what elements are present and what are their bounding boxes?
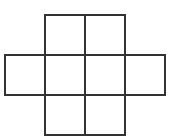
grid-cell-r1-c3 (124, 54, 166, 96)
grid-cell-r1-c2 (84, 54, 126, 96)
grid-cell-r0-c2 (84, 14, 126, 56)
grid-cell-r2-c1 (44, 94, 86, 136)
square-grid-net-figure (0, 0, 173, 140)
grid-cell-r0-c1 (44, 14, 86, 56)
grid-cell-r1-c0 (4, 54, 46, 96)
grid-cell-r2-c2 (84, 94, 126, 136)
grid-cell-r1-c1 (44, 54, 86, 96)
